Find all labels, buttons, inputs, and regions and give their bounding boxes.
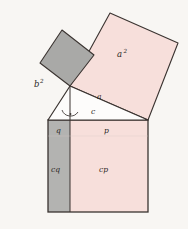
geometry-figure: a 2 b 2 a c q p cq cp: [0, 0, 188, 229]
label-rect-cp: cp: [99, 165, 108, 174]
label-b-squared: b: [34, 79, 39, 89]
label-a-squared: a: [117, 49, 122, 59]
right-angle-dot-icon: [70, 113, 72, 115]
label-segment-q: q: [56, 126, 61, 135]
label-a-squared-exponent: 2: [123, 48, 128, 54]
label-side-c: c: [91, 107, 96, 116]
label-rect-cq: cq: [51, 165, 60, 174]
pythagorean-theorem-diagram: a 2 b 2 a c q p cq cp: [0, 0, 188, 229]
label-side-a: a: [97, 92, 102, 101]
label-segment-p: p: [104, 126, 109, 135]
rectangle-cp: [70, 120, 148, 212]
label-b-squared-exponent: 2: [39, 78, 44, 84]
